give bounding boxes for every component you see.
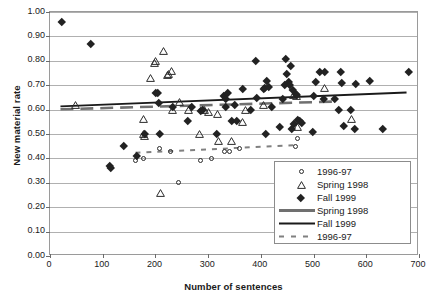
x-tick-label: 500	[293, 260, 333, 269]
y-tick-label: 0.40	[3, 153, 45, 162]
legend-marker-open-circle-icon	[299, 169, 304, 174]
x-tick-mark	[50, 254, 51, 258]
x-tick-mark	[155, 254, 156, 258]
y-tick-label: 0.60	[3, 104, 45, 113]
trend-line-1996-97	[135, 145, 296, 153]
y-tick-label: 0.00	[3, 251, 45, 260]
x-tick-label: 700	[398, 260, 434, 269]
chart-legend: 1996-97Spring 1998Fall 1999Spring 1998Fa…	[274, 161, 411, 244]
x-tick-label: 100	[82, 260, 122, 269]
y-tick-label: 0.70	[3, 80, 45, 89]
x-axis-title: Number of sentences	[49, 281, 418, 292]
x-tick-label: 200	[134, 260, 174, 269]
legend-label: Fall 1999	[317, 191, 356, 204]
legend-key	[275, 191, 317, 204]
legend-key	[275, 230, 317, 243]
legend-key	[275, 178, 317, 191]
x-tick-mark	[314, 254, 315, 258]
y-tick-label: 0.30	[3, 177, 45, 186]
scatter-chart: New material rate 0.000.100.200.300.400.…	[0, 0, 434, 305]
legend-label: 1996-97	[317, 165, 352, 178]
y-tick-label: 0.80	[3, 55, 45, 64]
x-tick-mark	[419, 254, 420, 258]
legend-label: Spring 1998	[317, 204, 368, 217]
legend-item: Fall 1999	[275, 217, 410, 230]
y-tick-label: 0.20	[3, 202, 45, 211]
legend-item: Spring 1998	[275, 178, 410, 191]
legend-marker-filled-diamond-icon	[297, 194, 305, 202]
legend-item: 1996-97	[275, 165, 410, 178]
legend-key	[275, 204, 317, 217]
legend-label: Spring 1998	[317, 178, 368, 191]
legend-label: Fall 1999	[317, 217, 356, 230]
x-tick-label: 600	[345, 260, 385, 269]
x-tick-mark	[208, 254, 209, 258]
x-tick-label: 400	[240, 260, 280, 269]
y-tick-label: 0.10	[3, 226, 45, 235]
trend-line-fall-1999	[60, 93, 406, 107]
x-tick-mark	[366, 254, 367, 258]
x-tick-label: 300	[187, 260, 227, 269]
y-tick-label: 1.00	[3, 7, 45, 16]
legend-key	[275, 165, 317, 178]
x-tick-mark	[103, 254, 104, 258]
legend-key	[275, 217, 317, 230]
legend-label: 1996-97	[317, 230, 352, 243]
legend-item: Spring 1998	[275, 204, 410, 217]
legend-item: 1996-97	[275, 230, 410, 243]
x-tick-label: 0	[29, 260, 69, 269]
legend-item: Fall 1999	[275, 191, 410, 204]
x-tick-mark	[261, 254, 262, 258]
y-tick-label: 0.90	[3, 31, 45, 40]
y-tick-label: 0.50	[3, 129, 45, 138]
